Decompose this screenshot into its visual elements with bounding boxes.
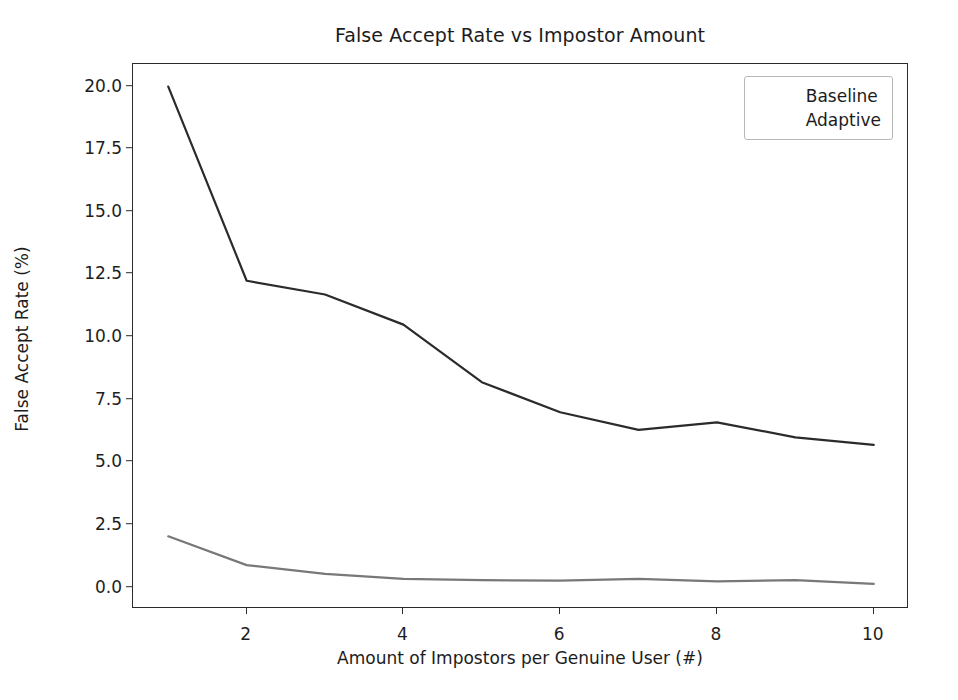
plot-area: Baseline Adaptive xyxy=(132,63,908,608)
y-axis-tick-labels: 0.02.55.07.510.012.515.017.520.0 xyxy=(58,63,122,608)
series-line-adaptive xyxy=(168,536,873,584)
x-tick-label: 4 xyxy=(397,624,408,644)
y-tick-label: 17.5 xyxy=(84,138,122,158)
y-tick-label: 5.0 xyxy=(95,451,122,471)
y-tick-label: 10.0 xyxy=(84,326,122,346)
x-axis-title: Amount of Impostors per Genuine User (#) xyxy=(132,648,908,668)
y-tick-label: 15.0 xyxy=(84,201,122,221)
series-line-baseline xyxy=(168,87,873,445)
y-tick-label: 2.5 xyxy=(95,514,122,534)
x-axis-tick-labels: 246810 xyxy=(132,608,908,648)
legend-label-adaptive: Adaptive xyxy=(806,110,881,130)
legend-item-adaptive: Adaptive xyxy=(754,108,881,132)
y-axis-title: False Accept Rate (%) xyxy=(12,67,32,612)
chart-title: False Accept Rate vs Impostor Amount xyxy=(132,24,908,46)
legend-item-baseline: Baseline xyxy=(754,84,881,108)
legend-label-baseline: Baseline xyxy=(806,86,878,106)
y-tick-label: 12.5 xyxy=(84,263,122,283)
y-tick-label: 7.5 xyxy=(95,389,122,409)
chart-figure: False Accept Rate vs Impostor Amount 0.0… xyxy=(0,0,958,700)
x-tick-label: 6 xyxy=(554,624,565,644)
x-tick-label: 2 xyxy=(240,624,251,644)
y-tick-label: 0.0 xyxy=(95,577,122,597)
plot-lines xyxy=(133,64,909,609)
chart-legend: Baseline Adaptive xyxy=(744,76,893,140)
x-tick-label: 8 xyxy=(711,624,722,644)
y-tick-label: 20.0 xyxy=(84,76,122,96)
x-tick-label: 10 xyxy=(862,624,884,644)
